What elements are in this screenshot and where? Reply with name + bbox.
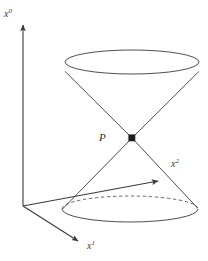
axis-label-x1: x1 bbox=[87, 240, 95, 251]
future-cone-left-generator bbox=[65, 72, 132, 139]
axis-label-x2: x2 bbox=[171, 158, 179, 169]
point-p-marker bbox=[129, 135, 135, 141]
point-label-p: P bbox=[99, 132, 106, 143]
past-cone-rim-back-dashed bbox=[62, 196, 198, 209]
past-cone-rim-front bbox=[62, 209, 198, 222]
future-cone-right-generator bbox=[132, 72, 199, 139]
light-cone-figure: x0 x1 x2 P bbox=[0, 0, 208, 261]
past-cone-left-generator bbox=[63, 138, 133, 209]
past-cone-right-generator bbox=[132, 138, 198, 208]
axis-label-x0: x0 bbox=[4, 8, 12, 19]
x1-axis-line bbox=[23, 206, 78, 241]
x2-axis-line bbox=[23, 181, 158, 206]
future-cone-rim bbox=[65, 50, 199, 74]
